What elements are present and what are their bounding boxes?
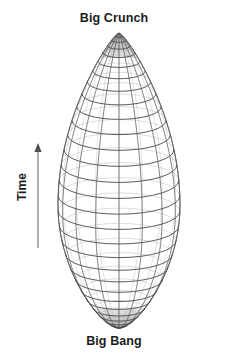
- up-arrow-icon: [34, 143, 41, 152]
- big-crunch-label: Big Crunch: [0, 11, 228, 25]
- wireframe-mesh: [58, 33, 180, 328]
- big-bang-label: Big Bang: [0, 334, 228, 348]
- time-axis-label: Time: [15, 157, 29, 217]
- closed-universe-diagram: Big Crunch Big Bang Time: [0, 0, 228, 364]
- time-axis-arrow: [34, 143, 41, 248]
- spindle-wireframe-svg: [0, 0, 228, 364]
